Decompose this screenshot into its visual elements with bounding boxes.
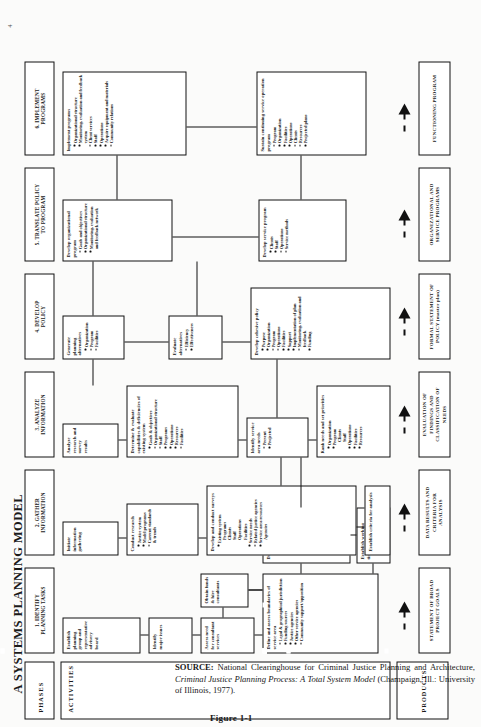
bullet: Monitoring, evaluation and feedback netw…: [88, 202, 98, 252]
bullet: Operations: [278, 202, 283, 252]
activity-head: Obtain funds & hire consultants: [203, 576, 220, 603]
connector: [300, 457, 301, 507]
bullet: Organization: [276, 74, 281, 146]
activity-head: Sustain continuing service operation pro…: [259, 74, 270, 151]
activity-head: Establish criteria for analysis: [367, 488, 373, 551]
source-title: Criminal Justice Planning Process: A Tot…: [175, 674, 375, 684]
activity-head: Rank needs and set priorities: [319, 388, 325, 453]
activity-box-2-1: Initiate information gathering: [62, 521, 118, 555]
source-prefix: SOURCE:: [175, 662, 214, 672]
bullet: Community relations: [108, 74, 113, 146]
connector: [172, 236, 258, 237]
activity-box-1-4: Obtain funds & hire consultants: [200, 573, 248, 607]
phase-label-1: 1. IDENTIFY PLANNING TASKS: [33, 586, 46, 634]
dashed-line: [403, 611, 405, 629]
product-arrow-4: [398, 307, 410, 335]
connector: [140, 634, 148, 635]
connector: [118, 439, 126, 440]
bullet: Resources: [357, 388, 362, 448]
activity-box-3-3: Identify service area needs Present Proj…: [246, 417, 308, 457]
product-box-1: STATEMENT OF BROAD PROJECT GOALS: [418, 567, 450, 653]
bullet: Service needs: [247, 488, 252, 546]
activity-box-6-2: Sustain continuing service operation pro…: [256, 71, 366, 155]
bullet: Facilities: [352, 388, 357, 448]
sub-bullet: Clients: [336, 388, 341, 448]
product-arrow-6: [398, 103, 410, 131]
bullet: Monitoring, evaluation and feedback: [296, 290, 306, 350]
activity-box-4-1: Generate planning alternatives Organizat…: [62, 315, 124, 359]
source-text-before: National Clearinghouse for Criminal Just…: [214, 662, 475, 672]
bullet: Support: [286, 290, 291, 350]
product-label-6: FUNCTIONING PROGRAM: [431, 74, 438, 142]
connector: [308, 439, 316, 440]
connector: [118, 537, 126, 538]
activity-head: Conduct research: [129, 506, 135, 551]
bullet: Resources: [297, 74, 302, 146]
phase-box-1: 1. IDENTIFY PLANNING TASKS: [24, 567, 54, 653]
page-marker: 4: [6, 24, 12, 27]
spacer22: [0, 648, 4, 653]
bullet: Resources: [173, 388, 178, 448]
activity-head: Develop service program: [261, 202, 267, 257]
activity-head: Identify major issues: [151, 620, 162, 649]
bullet: Organization: [265, 290, 270, 350]
figure-canvas: A SYSTEMS PLANNING MODEL 4 PHASES ACTIVI…: [0, 0, 481, 727]
connector: [222, 607, 223, 617]
arrow-head: [398, 601, 410, 612]
phase-box-2: 2. GATHER INFORMATION: [24, 469, 54, 555]
connector: [300, 563, 301, 573]
bullet: Program: [88, 318, 93, 350]
bullet: Facilities: [280, 290, 285, 350]
bullet: Implementation of plan: [291, 290, 296, 350]
activity-box-2-4: Establish criteria for analysis: [364, 485, 390, 555]
connector: [350, 534, 356, 535]
bullet: Program: [270, 290, 275, 350]
bullet: Client services: [87, 74, 92, 146]
source-note: SOURCE: National Clearinghouse for Crimi…: [175, 662, 475, 697]
figure-title: A SYSTEMS PLANNING MODEL: [10, 493, 25, 693]
connector: [248, 589, 262, 590]
sub-bullet: Facilities: [242, 488, 247, 546]
bullet: Staff: [157, 388, 162, 448]
bullet: Goals & objectives: [147, 388, 152, 448]
connector: [356, 526, 364, 527]
bullet: Operations: [346, 388, 351, 448]
bullet: Organizational structure: [72, 74, 77, 146]
bullet: Justice system: [136, 506, 141, 546]
sub-bullet: Staff: [341, 388, 346, 448]
product-box-6: FUNCTIONING PROGRAM: [418, 61, 450, 155]
phase-box-6: 6. IMPLEMENT PROGRAMS: [24, 61, 54, 155]
bullet: Existing system: [216, 488, 221, 546]
connector: [92, 359, 93, 385]
connector: [276, 359, 277, 417]
product-box-4: FORMAL STATEMENT OF POLICY (master plan): [418, 273, 450, 359]
activity-head: Develop organizational program: [65, 202, 76, 257]
rail-activities-label: ACTIVITIES: [66, 665, 73, 712]
bullet: Related justice agencies: [252, 488, 257, 546]
bullet: Programs: [162, 388, 167, 448]
bullet: Efficiency: [183, 318, 188, 350]
activity-bullets: Legal & geographical jurisdiction Fundin…: [277, 576, 303, 649]
dashed-line: [403, 113, 405, 131]
connector: [124, 341, 168, 342]
connector: [92, 261, 93, 315]
dashed-line: [403, 219, 405, 237]
connector: [186, 126, 256, 127]
arrow-head: [398, 209, 410, 220]
bullet: Purpose: [260, 290, 265, 350]
activity-bullets: Goals and objectives Organizational stru…: [77, 202, 98, 257]
arrow-head: [398, 103, 410, 114]
activity-bullets: Clients Staff Operations Service methods: [268, 202, 289, 257]
activity-bullets: Purpose Organization Program Operations …: [260, 290, 312, 355]
bullet: Community support/opposition: [298, 576, 303, 644]
bullet: Operations: [287, 74, 292, 146]
dashed-line: [403, 513, 405, 531]
product-box-3: EVALUATION OF FINDINGS AND CLASSIFICATIO…: [418, 371, 450, 457]
phase-box-3: 3. ANALYZE INFORMATION: [24, 371, 54, 457]
activity-box-1-5: Define and assess boundaries of service …: [262, 573, 378, 653]
arrow-head: [398, 307, 410, 318]
activity-box-1-3: Assess need for consultant services: [200, 617, 254, 653]
activity-bullets: Efficiency Effectiveness: [183, 318, 193, 355]
connector: [372, 563, 373, 573]
bullet: Other service agencies: [293, 576, 298, 644]
